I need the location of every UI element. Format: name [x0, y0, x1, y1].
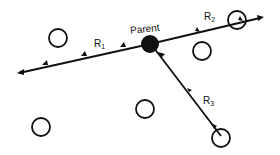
routing-diagram: R1 R2 R3 Parent	[0, 0, 280, 155]
node	[49, 29, 67, 47]
arrowhead-right-icon	[257, 15, 264, 21]
route-r3-label: R3	[203, 95, 214, 107]
parent-node	[141, 35, 159, 53]
direction-tick-icon	[120, 42, 126, 47]
direction-tick-icon	[81, 51, 87, 56]
direction-tick-icon	[195, 27, 200, 32]
direction-tick-icon	[238, 16, 243, 21]
route-r2-label: R2	[204, 11, 215, 23]
node-r3-destination	[212, 129, 230, 147]
route-r1-label: R1	[94, 38, 105, 50]
parent-label: Parent	[130, 22, 161, 36]
node	[136, 100, 154, 118]
direction-tick-icon	[42, 60, 48, 65]
node-r2-destination	[228, 11, 246, 29]
route-r1: R1	[17, 38, 150, 75]
node	[32, 118, 50, 136]
arrowhead-left-icon	[17, 69, 24, 75]
route-r2: R2	[150, 11, 264, 44]
route-r3: R3	[154, 48, 221, 136]
node	[193, 42, 211, 60]
